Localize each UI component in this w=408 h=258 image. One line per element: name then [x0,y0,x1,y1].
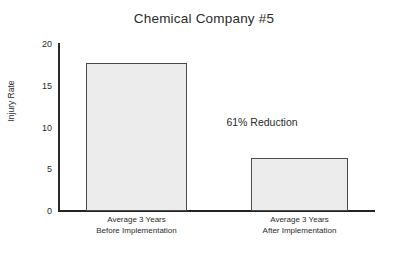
y-tick-10: 10 [6,123,52,132]
reduction-annotation: 61% Reduction [226,116,297,128]
x-category-label-before: Average 3 Years Before Implementation [86,215,187,236]
x-category-label-after-line2: After Implementation [251,226,348,237]
plot-area [59,44,375,211]
chart-container: Chemical Company #5 Injury Rate 0 5 10 1… [0,0,408,258]
x-category-label-after-line1: Average 3 Years [251,215,348,226]
x-category-label-before-line2: Before Implementation [86,226,187,237]
y-tick-15: 15 [6,81,52,90]
y-tick-5: 5 [6,165,52,174]
y-tick-20: 20 [6,40,52,49]
y-axis-ticks: 0 5 10 15 20 [0,44,52,211]
x-category-label-before-line1: Average 3 Years [86,215,187,226]
chart-title: Chemical Company #5 [0,11,408,26]
bar-before-implementation [86,63,187,211]
x-category-label-after: Average 3 Years After Implementation [251,215,348,236]
y-tick-0: 0 [6,207,52,216]
bar-after-implementation [251,158,348,211]
